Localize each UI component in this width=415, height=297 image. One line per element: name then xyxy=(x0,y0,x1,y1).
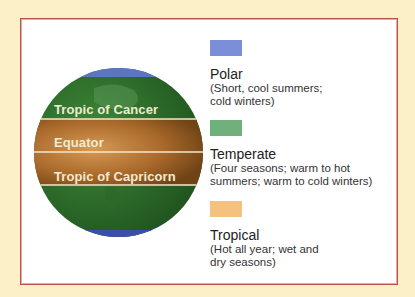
temperate-swatch xyxy=(210,120,242,136)
legend-description: (Hot all year; wet and xyxy=(210,243,319,256)
legend-description: dry seasons) xyxy=(210,256,319,269)
legend-item-tropical: Tropical (Hot all year; wet and dry seas… xyxy=(210,201,319,269)
legend-description: (Four seasons; warm to hot xyxy=(210,162,372,175)
legend-description: cold winters) xyxy=(210,95,322,108)
globe-illustration xyxy=(34,68,203,237)
legend-title: Polar xyxy=(210,66,322,82)
legend-item-polar: Polar (Short, cool summers; cold winters… xyxy=(210,40,322,108)
tropic-of-capricorn-label: Tropic of Capricorn xyxy=(54,169,176,184)
legend-item-temperate: Temperate (Four seasons; warm to hot sum… xyxy=(210,120,372,188)
legend-title: Temperate xyxy=(210,146,372,162)
legend-description: (Short, cool summers; xyxy=(210,82,322,95)
legend-description: summers; warm to cold winters) xyxy=(210,175,372,188)
equator-label: Equator xyxy=(54,135,104,150)
polar-swatch xyxy=(210,40,242,56)
legend-title: Tropical xyxy=(210,227,319,243)
tropic-of-cancer-label: Tropic of Cancer xyxy=(54,102,158,117)
tropical-swatch xyxy=(210,201,242,217)
